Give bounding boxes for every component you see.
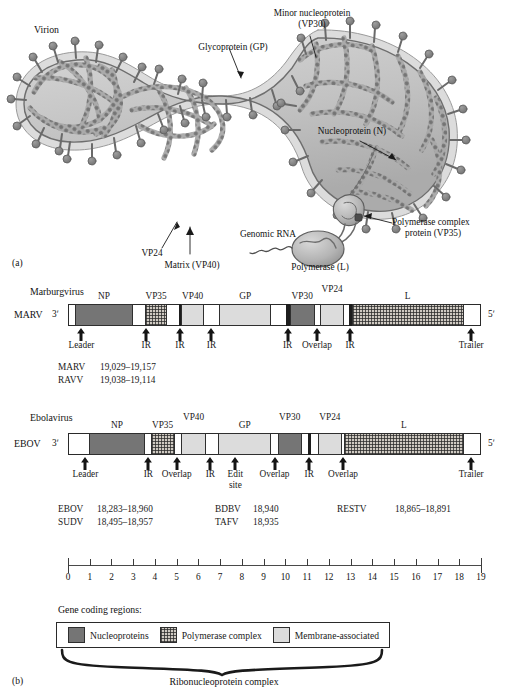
ruler-tick [68,558,69,573]
ruler-tick-label: 5 [174,572,179,582]
marker-arrow [142,327,151,340]
ruler-tick [481,558,482,573]
marker-label: IR [206,469,215,480]
marburgvirus-genus-label: Marburgvirus [30,286,84,297]
gene-segment-gp [218,433,271,455]
genome-size-species: MARV [58,362,85,372]
genome-size-range: 18,865–18,891 [395,504,451,514]
ruler-tick [220,559,221,566]
ruler-tick-label: 2 [109,572,114,582]
ruler-tick-label: 7 [218,572,223,582]
genome-size-species: TAFV [215,517,239,527]
ruler-tick-label: 12 [324,572,333,582]
ruler-tick-label: 10 [281,572,290,582]
gene-label-vp40: VP40 [183,412,204,422]
marker-arrow [346,327,355,340]
genome-size-species: BDBV [215,504,241,514]
gene-label-vp24: VP24 [322,284,343,294]
ruler-tick [133,559,134,566]
legend-swatch-mem [273,627,290,643]
legend-item-np: Nucleoproteins [68,627,149,643]
legend-swatch-np [68,627,85,643]
ruler-tick [264,559,265,566]
marker-arrow [172,456,181,469]
gene-segment-vp30 [290,304,315,326]
marker-arrow [206,456,215,469]
legend-swatch-poly [160,627,177,643]
label-polymerase: Polymerase (L) [291,262,349,273]
ruler-tick-label: 14 [368,572,377,582]
label-minor-nucleoprotein: Minor nucleoprotein [274,8,351,19]
genome-size-range: 18,283–18,960 [97,504,153,514]
gene-segment-np [75,304,134,326]
ruler-tick-label: 19 [476,572,485,582]
ruler-tick-label: 16 [411,572,420,582]
legend-item-label: Membrane-associated [295,630,379,641]
ruler-tick-label: 13 [346,572,355,582]
marker-label: Leader [69,340,95,351]
gene-segment-vp40 [181,304,203,326]
gene-segment-gp [219,304,271,326]
legend-title: Gene coding regions: [58,604,142,615]
marker-label: Editsite [228,469,244,490]
label-polymerase-complex: Polymerase complex [392,217,470,228]
ebolavirus-genus-label: Ebolavirus [30,412,72,423]
marker-arrow [467,327,476,340]
gene-label-gp: GP [239,291,251,301]
ruler-tick-label: 3 [131,572,136,582]
ruler-tick-label: 1 [87,572,92,582]
label-minor-nucleoprotein-sub: (VP30) [298,19,325,30]
genome-size-species: SUDV [58,517,83,527]
genome-size-species: RAVV [58,375,83,385]
ruler-tick-label: 9 [261,572,266,582]
gene-label-vp35: VP35 [152,420,173,430]
gene-segment-vp35 [145,304,167,326]
marker-label: IR [207,340,216,351]
ruler-tick-label: 6 [196,572,201,582]
marker-label: Trailer [459,469,484,480]
ebov-genome-map [0,433,512,455]
ruler-tick [394,559,395,566]
legend-item-poly: Polymerase complex [160,627,262,643]
ruler-tick [459,559,460,566]
genome-size-species: RESTV [337,504,366,514]
gene-label-np: NP [98,291,110,301]
ruler-tick [372,559,373,566]
ruler-tick-label: 0 [66,572,71,582]
gene-label-vp24: VP24 [319,412,340,422]
marker-arrow [175,327,184,340]
ruler-tick [307,559,308,566]
genome-size-range: 18,495–18,957 [97,517,153,527]
ruler-tick [198,559,199,566]
marker-label: Trailer [459,340,484,351]
gene-segment-vp24 [320,304,344,326]
label-matrix-vp40: Matrix (VP40) [164,260,219,271]
ruler-tick-label: 11 [303,572,312,582]
label-glycoprotein: Glycoprotein (GP) [198,42,267,53]
panel-a-mark: (a) [12,258,23,268]
marker-arrow [467,456,476,469]
gene-label-np: NP [111,420,123,430]
gene-label-l: L [405,291,411,301]
genome-size-range: 19,038–19,114 [100,375,155,385]
figure-filovirus-structure-and-genome: Virion Minor nucleoprotein (VP30) Glycop… [0,0,512,700]
label-vp24: VP24 [141,248,162,259]
legend-box: NucleoproteinsPolymerase complexMembrane… [56,622,390,648]
marker-arrow [77,327,86,340]
marker-label: Overlap [328,469,358,480]
ruler-tick [285,559,286,566]
marker-label: IR [283,340,292,351]
ruler-tick-label: 18 [455,572,464,582]
genome-size-range: 19,029–19,157 [100,362,156,372]
gene-label-l: L [401,420,407,430]
marker-label: Overlap [302,340,332,351]
marker-arrow [144,456,153,469]
genome-size-species: EBOV [58,504,83,514]
ruler-tick [155,559,156,566]
marker-arrow [283,327,292,340]
marker-arrow [305,456,314,469]
marker-arrow [81,456,90,469]
gene-segment-vp40 [181,433,206,455]
ruler-tick-label: 4 [153,572,158,582]
marker-label: IR [144,469,153,480]
